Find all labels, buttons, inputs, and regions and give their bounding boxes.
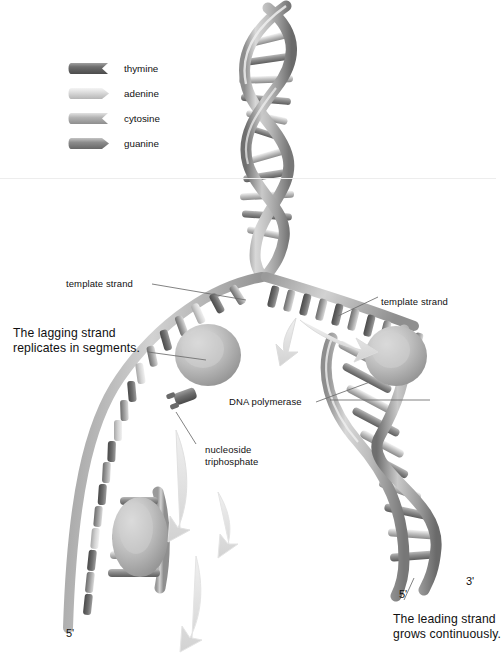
legend-label-thymine: thymine [124,63,158,74]
arrow-lagging-bottom [180,556,202,652]
legend: thymine adenine cytosine [68,56,198,156]
nucleotide-cylinder-icon [68,112,114,125]
label-three-prime-fork-right: 3' [466,575,474,588]
nucleoside-triphosphate-molecule [166,385,199,410]
annotation-dna-polymerase: DNA polymerase [229,396,302,408]
annotation-template-strand-left: template strand [66,278,133,290]
arrow-okazaki [218,492,238,558]
annotation-nucleoside-triphosphate: nucleoside triphosphate [205,444,259,467]
faint-divider [0,178,496,179]
annotation-lagging-strand: The lagging strand replicates in segment… [13,326,140,356]
legend-label-cytosine: cytosine [124,113,160,124]
nucleotide-cylinder-icon [68,87,114,100]
annotation-template-strand-right: template strand [381,296,448,308]
legend-item-adenine: adenine [68,81,198,106]
label-five-prime-fork-right: 5' [399,588,407,601]
legend-item-guanine: guanine [68,131,198,156]
parent-double-helix [239,6,294,276]
arrow-lagging-down [168,430,190,542]
nucleotide-cylinder-icon [68,62,114,75]
legend-label-guanine: guanine [124,138,159,149]
legend-item-cytosine: cytosine [68,106,198,131]
nucleotide-cylinder-icon [68,137,114,150]
legend-item-thymine: thymine [68,56,198,81]
arrow-fork-left [276,318,298,366]
label-five-prime-bottom-left: 5' [66,627,74,640]
legend-label-adenine: adenine [124,88,159,99]
annotation-leading-strand: The leading strand grows continuously. [393,612,501,642]
